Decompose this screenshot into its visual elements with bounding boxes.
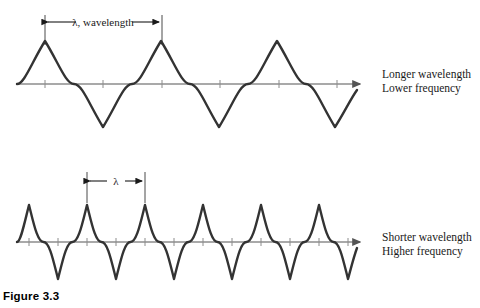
top-wave-description-line2: Lower frequency [382, 82, 471, 96]
bottom-wave-description: Shorter wavelength Higher frequency [382, 231, 472, 258]
bottom-wave-description-line2: Higher frequency [382, 245, 472, 259]
bottom-wave-group: λ [17, 172, 360, 279]
bottom-wave-description-line1: Shorter wavelength [382, 231, 472, 245]
top-wave-group: λ, wavelength [17, 15, 360, 127]
figure-container: λ, wavelength λ [0, 0, 480, 308]
top-wave-description-line1: Longer wavelength [382, 68, 471, 82]
top-wave-description: Longer wavelength Lower frequency [382, 68, 471, 95]
figure-caption: Figure 3.3 [3, 290, 59, 302]
wave-diagram: λ, wavelength λ [0, 0, 480, 308]
top-dimension-label: λ, wavelength [72, 16, 134, 28]
bottom-dimension-label: λ [113, 175, 119, 187]
